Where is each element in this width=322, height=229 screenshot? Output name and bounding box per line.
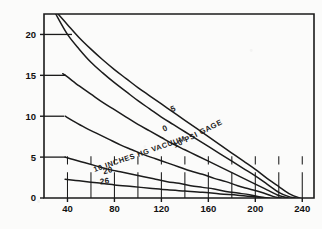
x-tick-label-0: 40 xyxy=(62,203,73,214)
y-tick-label-2: 10 xyxy=(25,111,36,122)
x-tick-label-3: 160 xyxy=(200,203,216,214)
oxygen-content-chart: 10 PSI GAGE5010 INCHES HG VACUUM2026 408… xyxy=(0,0,322,229)
curve-label-5: 26 xyxy=(99,176,110,186)
y-tick-label-1: 5 xyxy=(31,152,37,163)
y-tick-label-0: 0 xyxy=(31,192,36,203)
y-tick-label-4: 20 xyxy=(25,29,36,40)
y-tick-label-3: 15 xyxy=(25,70,36,81)
x-tick-label-5: 240 xyxy=(294,203,310,214)
x-tick-label-2: 120 xyxy=(153,203,169,214)
x-tick-label-1: 80 xyxy=(109,203,120,214)
x-tick-label-4: 200 xyxy=(247,203,263,214)
